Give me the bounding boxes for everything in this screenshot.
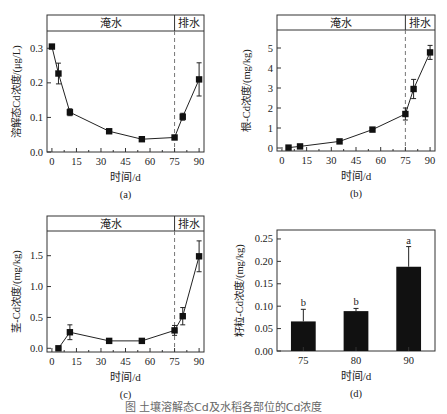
chart-panel-c: 淹水排水01530456075900.00.51.01.5时间/d茎-Cd浓度/…: [0, 200, 225, 400]
phase-label-flood: 淹水: [100, 17, 122, 29]
x-tick-label: 90: [425, 155, 436, 166]
data-point-marker: [139, 338, 145, 344]
bar: [291, 321, 316, 351]
plot-d: 0.000.050.100.150.200.25b75b80a90时间/d籽粒-…: [233, 230, 435, 400]
x-tick-label: 15: [71, 356, 82, 367]
series-line: [289, 52, 431, 147]
chart-panel-a: 淹水排水01530456075900.00.10.20.3时间/d溶解态Cd浓度…: [0, 0, 225, 200]
x-tick-label: 45: [351, 155, 362, 166]
data-point-marker: [139, 136, 145, 142]
x-tick-label: 90: [194, 356, 205, 367]
data-point-marker: [336, 138, 342, 144]
x-tick-label: 30: [96, 356, 107, 367]
data-point-marker: [106, 338, 112, 344]
x-tick-label: 0: [49, 156, 54, 167]
x-tick-label: 0: [279, 155, 284, 166]
x-tick-label: 15: [71, 156, 82, 167]
y-tick-label: 0.2: [30, 77, 43, 88]
data-point-marker: [55, 345, 61, 351]
x-tick-label: 60: [145, 156, 156, 167]
plot-b: 淹水排水0153045607590012345时间/d根-Cd浓度/(mg/kg…: [240, 15, 435, 200]
y-axis-label: 溶解态Cd浓度/(μg/L): [10, 45, 23, 138]
data-point-marker: [427, 49, 433, 55]
x-tick-label: 75: [169, 156, 180, 167]
phase-label-drain: 排水: [178, 217, 200, 230]
data-point-marker: [180, 313, 186, 319]
y-tick-label: 0.0: [30, 343, 43, 354]
data-point-marker: [67, 329, 73, 335]
y-tick-label: 0.15: [255, 278, 273, 289]
data-point-marker: [369, 126, 375, 132]
y-tick-label: 0.05: [255, 323, 273, 334]
plot-c: 淹水排水01530456075900.00.51.01.5时间/d茎-Cd浓度/…: [10, 216, 204, 400]
data-point-marker: [171, 327, 177, 333]
data-point-marker: [171, 134, 177, 140]
y-tick-label: 2: [268, 103, 273, 114]
data-point-marker: [106, 128, 112, 134]
y-tick-label: 0.5: [30, 312, 43, 323]
plot-a: 淹水排水01530456075900.00.10.20.3时间/d溶解态Cd浓度…: [10, 15, 204, 200]
data-point-marker: [410, 86, 416, 92]
x-tick-label: 75: [298, 355, 309, 366]
bar: [396, 267, 421, 351]
x-tick-label: 15: [301, 155, 312, 166]
plot-frame: [47, 15, 204, 152]
bar: [344, 311, 369, 351]
figure-caption: 图 土壤溶解态Cd及水稻各部位的Cd浓度: [0, 398, 447, 414]
series-line: [58, 256, 199, 348]
y-axis-label: 茎-Cd浓度/(mg/kg): [10, 250, 23, 333]
data-point-marker: [196, 253, 202, 259]
phase-label-flood: 淹水: [330, 17, 352, 29]
significance-letter: a: [406, 235, 411, 246]
x-axis-label: 时间/d: [110, 171, 141, 183]
phase-label-drain: 排水: [409, 16, 431, 29]
phase-label-drain: 排水: [178, 16, 200, 29]
y-tick-label: 1: [268, 123, 273, 134]
y-tick-label: 1.5: [30, 250, 43, 261]
x-tick-label: 75: [169, 356, 180, 367]
data-point-marker: [55, 70, 61, 76]
x-tick-label: 80: [351, 355, 362, 366]
y-tick-label: 0.20: [255, 256, 273, 267]
y-tick-label: 0.0: [30, 147, 43, 158]
y-tick-label: 0.3: [30, 43, 43, 54]
chart-panel-d: 0.000.050.100.150.200.25b75b80a90时间/d籽粒-…: [225, 200, 447, 400]
y-tick-label: 3: [268, 83, 273, 94]
chart-panel-b: 淹水排水0153045607590012345时间/d根-Cd浓度/(mg/kg…: [225, 0, 447, 200]
y-axis-label: 籽粒-Cd浓度/(mg/kg): [233, 244, 246, 337]
x-tick-label: 90: [403, 355, 414, 366]
x-tick-label: 60: [375, 155, 386, 166]
y-tick-label: 0.25: [255, 233, 273, 244]
y-tick-label: 0: [268, 143, 273, 154]
y-tick-label: 5: [268, 43, 273, 54]
y-axis-label: 根-Cd浓度/(mg/kg): [240, 49, 253, 132]
plot-frame: [277, 15, 435, 151]
data-point-marker: [49, 43, 55, 49]
x-tick-label: 45: [120, 356, 131, 367]
phase-label-flood: 淹水: [100, 218, 122, 230]
panel-label: (a): [120, 189, 132, 200]
data-point-marker: [67, 109, 73, 115]
data-point-marker: [297, 143, 303, 149]
x-tick-label: 30: [326, 155, 337, 166]
data-point-marker: [196, 76, 202, 82]
data-point-marker: [285, 144, 291, 150]
x-tick-label: 45: [120, 156, 131, 167]
y-tick-label: 0.10: [255, 301, 273, 312]
series-line: [52, 47, 199, 140]
y-tick-label: 0.1: [30, 112, 43, 123]
x-axis-label: 时间/d: [341, 370, 372, 382]
data-point-marker: [180, 114, 186, 120]
x-tick-label: 30: [96, 156, 107, 167]
significance-letter: b: [301, 297, 306, 308]
y-tick-label: 0.00: [255, 346, 273, 357]
data-point-marker: [402, 111, 408, 117]
x-tick-label: 75: [400, 155, 411, 166]
x-tick-label: 0: [49, 356, 54, 367]
y-tick-label: 4: [268, 63, 274, 74]
significance-letter: b: [353, 296, 358, 307]
x-tick-label: 60: [145, 356, 156, 367]
x-tick-label: 90: [194, 156, 205, 167]
x-axis-label: 时间/d: [110, 371, 141, 383]
x-axis-label: 时间/d: [341, 170, 372, 182]
